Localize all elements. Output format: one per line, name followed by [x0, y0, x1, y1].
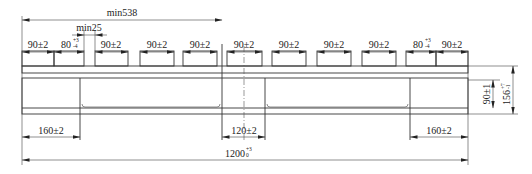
label-min25: min25 [76, 22, 102, 33]
fork-opening-left [82, 104, 220, 107]
label-min538: min538 [107, 7, 138, 18]
label-top-board: 90±2 [234, 39, 255, 50]
svg-text:1200: 1200 [225, 148, 245, 159]
svg-text:-4: -4 [73, 43, 78, 49]
svg-text:156: 156 [501, 90, 512, 105]
label-top-board: 90±2 [28, 39, 49, 50]
svg-text:0: 0 [246, 152, 249, 158]
label-top-board: 90±2 [279, 39, 300, 50]
top-board [183, 51, 217, 66]
top-board [436, 51, 468, 66]
top-board [22, 51, 54, 66]
label-overall: 1200 +3 0 [225, 146, 252, 159]
label-inner-height: 90±1 [481, 84, 492, 105]
pallet-drawing: min538 min25 90±2 80 +3 -4 90±2 90±2 90±… [0, 0, 532, 174]
label-top-board: 90±2 [442, 39, 463, 50]
top-board [54, 51, 84, 66]
label-top-board: 90±2 [101, 39, 122, 50]
top-board [362, 51, 396, 66]
main-body [22, 78, 468, 114]
label-top-board: 90±2 [369, 39, 390, 50]
top-board [227, 51, 262, 66]
label-top-board: 90±2 [190, 39, 211, 50]
top-board [406, 51, 436, 66]
label-total-height: 156 +7 -1 [500, 83, 512, 105]
svg-text:80: 80 [413, 39, 423, 50]
label-top-board: 90±2 [324, 39, 345, 50]
svg-text:80: 80 [61, 39, 71, 50]
label-top-board: 90±2 [147, 39, 168, 50]
label-right-block: 160±2 [426, 125, 452, 136]
svg-text:-4: -4 [425, 43, 430, 49]
svg-text:-1: -1 [505, 84, 511, 89]
top-boards [22, 51, 468, 66]
label-top-board-tol: 80 +3 -4 [413, 37, 431, 50]
top-board [317, 51, 351, 66]
dimension-labels: min538 min25 90±2 80 +3 -4 90±2 90±2 90±… [28, 7, 512, 159]
dimension-lines [22, 20, 513, 160]
top-board [95, 51, 128, 66]
fork-opening-right [267, 104, 408, 107]
top-board [272, 51, 306, 66]
label-left-block: 160±2 [38, 125, 64, 136]
deck-strip [22, 66, 468, 73]
label-top-board-tol: 80 +3 -4 [61, 37, 79, 50]
label-center-block: 120±2 [231, 125, 257, 136]
top-board [140, 51, 174, 66]
